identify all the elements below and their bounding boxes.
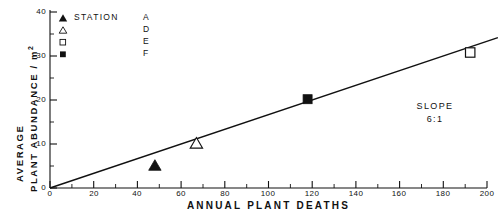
legend-code: F	[143, 48, 149, 58]
y-axis-major-ticks	[50, 12, 57, 188]
data-point-station-d	[190, 138, 202, 149]
legend-code: A	[143, 12, 149, 22]
data-point-station-a	[149, 160, 161, 171]
filled-square-icon	[58, 49, 68, 59]
data-point-station-e	[303, 95, 312, 104]
data-point-station-f	[466, 48, 475, 57]
legend: STATION A D E F	[58, 12, 188, 60]
legend-row: F	[58, 48, 188, 60]
filled-triangle-icon	[58, 13, 68, 23]
legend-code: D	[143, 24, 150, 34]
slope-annotation-line1: SLOPE	[405, 100, 465, 113]
legend-row: E	[58, 36, 188, 48]
chart-figure: AVERAGE PLANT ABUNDANCE / m2 40 30 20 10…	[0, 0, 503, 221]
open-square-icon	[58, 37, 68, 47]
legend-title: STATION	[74, 12, 119, 22]
slope-annotation-line2: 6:1	[405, 113, 465, 126]
legend-row: D	[58, 24, 188, 36]
open-triangle-icon	[58, 25, 68, 35]
legend-row: STATION A	[58, 12, 188, 24]
slope-annotation: SLOPE 6:1	[405, 100, 465, 126]
legend-code: E	[143, 36, 149, 46]
